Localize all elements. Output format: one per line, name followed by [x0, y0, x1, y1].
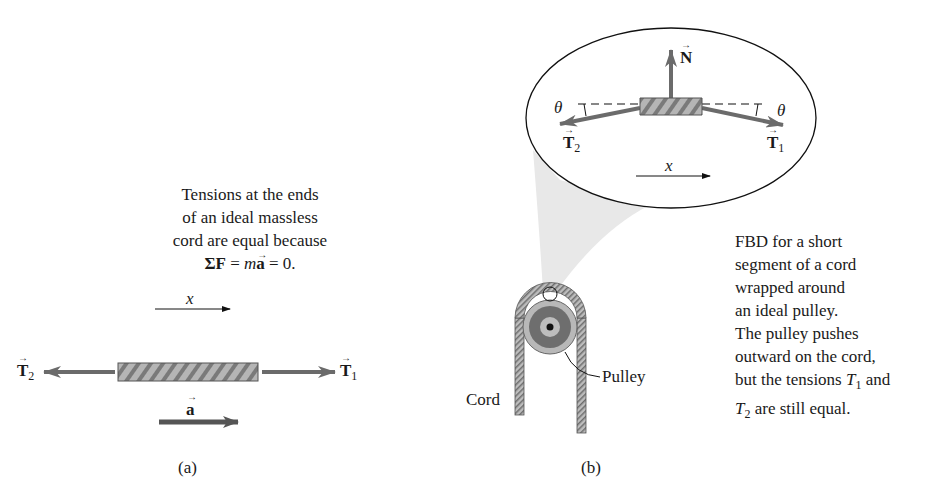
- panel-label-a: (a): [178, 458, 197, 478]
- caption-line: outward on the cord,: [735, 345, 944, 368]
- pulley-label: Pulley: [602, 367, 645, 387]
- caption-line: FBD for a short: [735, 230, 944, 253]
- acceleration-label: →a: [186, 400, 195, 420]
- panel-b-caption: FBD for a short segment of a cord wrappe…: [735, 230, 944, 426]
- caption-line: The pulley pushes: [735, 322, 944, 345]
- caption-line: T2 are still equal.: [735, 397, 944, 426]
- theta-left-label: θ: [554, 98, 562, 118]
- caption-line: cord are equal because: [150, 229, 350, 252]
- tension-t1-label: →T1: [340, 361, 357, 384]
- caption-line: of an ideal massless: [150, 206, 350, 229]
- cord-left-strand: [515, 318, 524, 415]
- tension-t2-label: →T2: [17, 361, 34, 384]
- panel-a-caption: Tensions at the ends of an ideal massles…: [150, 183, 350, 275]
- caption-line: segment of a cord: [735, 253, 944, 276]
- normal-force-label: →N: [680, 48, 692, 68]
- theta-right-label: θ: [777, 101, 785, 121]
- inset-t1-label: →T1: [767, 133, 784, 156]
- pulley-assembly: [515, 283, 600, 434]
- caption-line: Tensions at the ends: [150, 183, 350, 206]
- inset-x-axis-label: x: [665, 156, 673, 176]
- inset-fbd: [526, 28, 816, 208]
- pulley-axle: [547, 324, 554, 331]
- panel-label-b: (b): [581, 458, 601, 478]
- inset-t2-label: →T2: [563, 133, 580, 156]
- x-axis-label: x: [186, 289, 194, 309]
- caption-line: wrapped around: [735, 276, 944, 299]
- cord-right-strand: [577, 318, 586, 433]
- cord-segment: [118, 363, 258, 381]
- newton-equation: ΣF = m→a = 0.: [150, 252, 350, 275]
- inset-cord-segment: [640, 98, 702, 115]
- caption-line: but the tensions T1 and: [735, 368, 944, 397]
- cord-label: Cord: [466, 390, 500, 410]
- caption-line: an ideal pulley.: [735, 299, 944, 322]
